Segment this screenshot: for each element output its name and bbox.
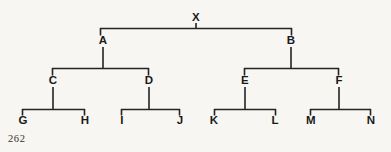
branch-group-c — [22, 87, 85, 116]
tree-diagram-canvas: X A B C D E F G H I J K L M N — [0, 0, 391, 152]
node-label-b: B — [287, 34, 296, 46]
node-label-n: N — [367, 114, 376, 126]
branch-group-x — [100, 23, 292, 36]
node-label-c: C — [49, 74, 58, 86]
branch-group-f — [310, 87, 371, 116]
node-label-k: K — [210, 114, 219, 126]
node-label-i: I — [120, 114, 123, 126]
branch-group-a — [52, 47, 149, 76]
tree-diagram-figure: X A B C D E F G H I J K L M N 262 — [0, 0, 391, 152]
node-label-f: F — [335, 74, 342, 86]
node-label-a: A — [99, 34, 108, 46]
branch-group-e — [214, 87, 276, 116]
node-label-d: D — [145, 74, 154, 86]
branch-group-b — [244, 47, 339, 76]
node-label-m: M — [306, 114, 316, 126]
node-label-e: E — [241, 74, 249, 86]
node-label-j: J — [177, 114, 184, 126]
node-label-l: L — [271, 114, 278, 126]
node-label-x: X — [192, 11, 200, 23]
page-number: 262 — [8, 133, 26, 144]
node-label-g: G — [18, 114, 27, 126]
node-label-h: H — [81, 114, 90, 126]
branch-group-d — [121, 87, 180, 116]
